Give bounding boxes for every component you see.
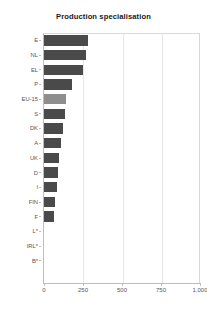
y-tick-mark	[39, 216, 41, 217]
chart-container: Production specialisation ENLELPEU-15SDK…	[0, 0, 207, 312]
bar-row	[44, 195, 200, 210]
y-axis-labels: ENLELPEU-15SDKAUKDIFINFL*IRL*B*	[0, 33, 41, 283]
bar-uk[interactable]	[44, 153, 59, 163]
x-tick-mark	[83, 283, 84, 286]
y-tick-mark	[39, 143, 41, 144]
y-tick-mark	[39, 99, 41, 100]
x-tick-label: 1,000	[192, 287, 207, 293]
y-label-row: UK	[0, 151, 41, 166]
x-tick-label: 250	[78, 287, 88, 293]
y-tick-mark	[39, 40, 41, 41]
bar-row	[44, 253, 200, 268]
bar-row	[44, 62, 200, 77]
y-label-row: DK	[0, 121, 41, 136]
y-label-row: NL	[0, 48, 41, 63]
y-label-row: A	[0, 136, 41, 151]
x-tick-mark	[161, 283, 162, 286]
x-tick-label: 0	[42, 287, 45, 293]
bar-nl[interactable]	[44, 50, 86, 60]
y-label-row: D	[0, 165, 41, 180]
y-tick-mark	[39, 172, 41, 173]
bars-layer	[44, 33, 200, 283]
y-label-row: EL	[0, 62, 41, 77]
bar-row	[44, 180, 200, 195]
bar-row	[44, 33, 200, 48]
bar-row	[44, 165, 200, 180]
x-tick-mark	[44, 283, 45, 286]
y-tick-mark	[39, 187, 41, 188]
y-label-row: P	[0, 77, 41, 92]
y-tick-mark	[39, 158, 41, 159]
y-label-row: I	[0, 180, 41, 195]
bar-el[interactable]	[44, 65, 83, 75]
bar-d[interactable]	[44, 167, 58, 177]
chart-title: Production specialisation	[0, 12, 207, 21]
x-axis-ticks: 02505007501,000	[0, 283, 207, 303]
x-tick-mark	[122, 283, 123, 286]
y-tick-mark	[39, 84, 41, 85]
bar-f[interactable]	[44, 211, 54, 221]
y-tick-mark	[39, 260, 41, 261]
bar-row	[44, 136, 200, 151]
bar-row	[44, 121, 200, 136]
bar-row	[44, 48, 200, 63]
bar-eu-15[interactable]	[44, 94, 66, 104]
y-label-row: FIN	[0, 195, 41, 210]
bar-row	[44, 92, 200, 107]
y-tick-mark	[39, 202, 41, 203]
y-label-row: IRL*	[0, 239, 41, 254]
y-tick-mark	[39, 128, 41, 129]
bar-row	[44, 239, 200, 254]
y-label-row: EU-15	[0, 92, 41, 107]
y-tick-mark	[39, 55, 41, 56]
x-tick-mark	[200, 283, 201, 286]
bar-row	[44, 209, 200, 224]
bar-e[interactable]	[44, 35, 88, 45]
bar-dk[interactable]	[44, 123, 63, 133]
bar-a[interactable]	[44, 138, 61, 148]
y-label-row: S	[0, 106, 41, 121]
y-tick-mark	[39, 69, 41, 70]
bar-row	[44, 106, 200, 121]
y-tick-mark	[39, 231, 41, 232]
y-label-row: L*	[0, 224, 41, 239]
y-label-row: E	[0, 33, 41, 48]
x-tick-label: 500	[117, 287, 127, 293]
bar-p[interactable]	[44, 79, 72, 89]
bar-row	[44, 224, 200, 239]
bar-row	[44, 77, 200, 92]
bar-row	[44, 151, 200, 166]
x-tick-label: 750	[156, 287, 166, 293]
bar-fin[interactable]	[44, 197, 55, 207]
y-label-row: B*	[0, 253, 41, 268]
y-label-row: F	[0, 209, 41, 224]
y-tick-mark	[39, 246, 41, 247]
bar-i[interactable]	[44, 182, 57, 192]
bar-s[interactable]	[44, 109, 65, 119]
y-tick-mark	[39, 113, 41, 114]
